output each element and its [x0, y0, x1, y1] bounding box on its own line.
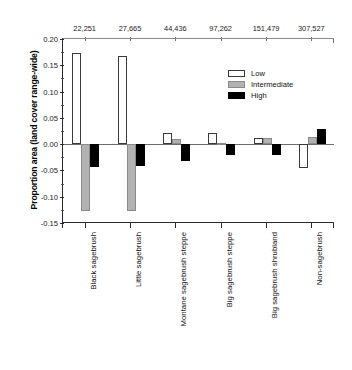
y-axis-tick-mark	[60, 118, 64, 119]
bar-low-3	[208, 133, 217, 144]
chart-legend: LowIntermediateHigh	[228, 68, 293, 101]
bar-intermediate-2	[172, 139, 181, 144]
legend-item-high: High	[228, 90, 293, 101]
y-axis-minor-tick	[61, 52, 64, 53]
y-axis-title: Proportion area (land cover range-wide)	[29, 15, 39, 245]
bar-intermediate-0	[81, 144, 90, 211]
legend-label: Intermediate	[251, 80, 293, 89]
sample-size-label: 151,479	[253, 24, 280, 33]
bar-high-3	[226, 144, 235, 155]
bar-high-0	[90, 144, 99, 167]
y-axis-tick-mark	[60, 170, 64, 171]
sample-size-label: 97,262	[209, 24, 232, 33]
y-axis-tick-mark	[60, 197, 64, 198]
legend-label: Low	[251, 69, 265, 78]
x-axis-category-label: Black sagebrush	[89, 232, 98, 290]
y-axis-minor-tick	[61, 184, 64, 185]
legend-swatch-icon	[228, 92, 245, 99]
sample-size-label: 44,436	[164, 24, 187, 33]
x-axis-end-tick	[333, 223, 334, 228]
x-axis-category-label: Non-sagebrush	[315, 232, 324, 285]
bar-intermediate-1	[127, 144, 136, 211]
x-axis-line	[62, 222, 334, 223]
x-axis-end-tick	[62, 223, 63, 228]
bar-low-5	[299, 144, 308, 168]
legend-label: High	[251, 91, 267, 100]
x-axis-tick-mark	[175, 223, 176, 228]
x-axis-category-label: Big sagebrush shrubland	[270, 232, 279, 318]
bar-low-0	[72, 53, 81, 144]
plot-area: 0.200.150.100.050.00-0.05-0.10-0.15	[62, 38, 334, 222]
bar-low-4	[254, 138, 263, 144]
bar-intermediate-4	[263, 138, 272, 144]
sample-size-label: 307,527	[298, 24, 325, 33]
y-axis-minor-tick	[61, 210, 64, 211]
legend-swatch-icon	[228, 70, 245, 77]
x-axis-tick-mark	[221, 223, 222, 228]
bar-high-4	[272, 144, 281, 155]
bar-low-2	[163, 133, 172, 145]
legend-swatch-icon	[228, 81, 245, 88]
sample-size-label: 27,665	[119, 24, 142, 33]
x-axis-tick-mark	[311, 223, 312, 228]
x-axis-tick-mark	[266, 223, 267, 228]
y-axis-tick-mark	[60, 144, 64, 145]
y-axis-minor-tick	[61, 131, 64, 132]
x-axis-tick-mark	[130, 223, 131, 228]
y-axis-tick-mark	[60, 65, 64, 66]
bar-high-5	[317, 129, 326, 144]
x-axis-category-label: Montane sagebrush steppe	[179, 232, 188, 327]
bar-high-1	[136, 144, 145, 166]
y-axis-minor-tick	[61, 105, 64, 106]
x-axis-category-label: Little sagebrush	[134, 232, 143, 287]
bar-intermediate-3	[217, 143, 226, 145]
y-axis-tick-mark	[60, 92, 64, 93]
legend-item-low: Low	[228, 68, 293, 79]
zero-reference-line	[63, 144, 334, 145]
bar-low-1	[118, 56, 127, 144]
x-axis-tick-mark	[85, 223, 86, 228]
sample-size-label: 22,251	[73, 24, 96, 33]
y-axis-tick-mark	[60, 39, 64, 40]
legend-item-intermediate: Intermediate	[228, 79, 293, 90]
bar-high-2	[181, 144, 190, 161]
y-axis-minor-tick	[61, 78, 64, 79]
bar-chart-figure: Proportion area (land cover range-wide) …	[0, 0, 352, 370]
bar-intermediate-5	[308, 137, 317, 144]
y-axis-minor-tick	[61, 157, 64, 158]
x-axis-category-label: Big sagebrush steppe	[225, 232, 234, 307]
